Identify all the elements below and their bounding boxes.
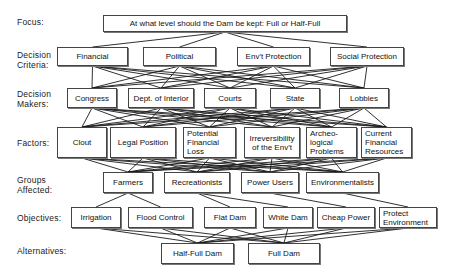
node-label: Recreationists [172, 178, 223, 187]
groups-node-power-users: Power Users [241, 172, 299, 193]
makers-node-dept-of-interior: Dept. of Interior [128, 88, 194, 108]
objectives-node-white-dam: White Dam [263, 207, 313, 228]
node-label: Courts [218, 94, 242, 103]
node-label: Potential Financial Loss [187, 129, 219, 156]
connector-line [364, 66, 367, 88]
objectives-node-irrigation: Irrigation [71, 207, 121, 228]
node-label: Environmentalists [311, 178, 374, 187]
node-label: At what level should the Dam be kept: Fu… [130, 19, 321, 28]
node-label: Power Users [247, 178, 293, 187]
connector-line [343, 193, 409, 207]
connector-line [82, 108, 92, 127]
level-label-groups: Groups Affected: [17, 175, 52, 195]
connector-line [230, 66, 367, 88]
groups-node-environmentalists: Environmentalists [306, 172, 379, 193]
node-label: Irrigation [80, 213, 111, 222]
makers-node-state: State [270, 88, 320, 108]
makers-node-courts: Courts [204, 88, 256, 108]
node-label: White Dam [268, 213, 308, 222]
connector-line [96, 193, 128, 207]
factors-node-irreversibility-of-the-env-t: Irreversibility of the Env't [244, 127, 300, 158]
connector-line [270, 158, 272, 172]
objectives-node-flat-dam: Flat Dam [204, 207, 256, 228]
factors-node-clout: Clout [57, 127, 107, 158]
focus-node-at-what-level-should-the-dam-be-kept-full-or-half-full: At what level should the Dam be kept: Fu… [103, 15, 347, 32]
node-label: Cheap Power [322, 213, 370, 222]
node-label: Congress [75, 94, 109, 103]
groups-node-farmers: Farmers [103, 172, 153, 193]
criteria-node-social-protection: Social Protection [330, 47, 404, 66]
node-label: Env't Protection [246, 52, 302, 61]
node-label: Farmers [113, 178, 143, 187]
connector-line [197, 193, 288, 207]
level-label-objectives: Objectives: [17, 213, 61, 223]
makers-node-lobbies: Lobbies [339, 88, 389, 108]
connector-line [364, 108, 387, 127]
node-label: Current Financial Resources [365, 129, 403, 156]
connector-line [284, 228, 288, 243]
node-label: State [286, 94, 305, 103]
connector-line [128, 193, 161, 207]
connector-line [92, 66, 93, 88]
connector-line [225, 32, 367, 47]
factors-node-archeo-logical-problems: Archeo- logical Problems [306, 127, 357, 158]
criteria-node-political: Political [143, 47, 216, 66]
node-label: Flat Dam [214, 213, 246, 222]
level-label-focus: Focus: [17, 17, 44, 27]
factors-node-potential-financial-loss: Potential Financial Loss [183, 127, 236, 158]
node-label: Irreversibility of the Env't [250, 134, 295, 152]
objectives-node-flood-control: Flood Control [128, 207, 193, 228]
level-label-criteria: Decision Criteria: [17, 50, 51, 70]
node-label: Political [166, 52, 194, 61]
connector-line [270, 193, 346, 207]
level-label-makers: Decision Makers: [17, 89, 51, 109]
node-label: Protect Environment [383, 209, 428, 227]
factors-node-legal-position: Legal Position [110, 127, 176, 158]
level-label-factors: Factors: [17, 138, 49, 148]
level-label-alternatives: Alternatives: [17, 246, 66, 256]
node-label: Flood Control [136, 213, 184, 222]
connector-line [93, 32, 226, 47]
alternatives-node-full-dam: Full Dam [248, 243, 320, 264]
factors-node-current-financial-resources: Current Financial Resources [361, 127, 412, 158]
objectives-node-cheap-power: Cheap Power [317, 207, 375, 228]
connector-line [284, 228, 346, 243]
objectives-node-protect-environment: Protect Environment [379, 207, 437, 228]
criteria-node-financial: Financial [57, 47, 128, 66]
alternatives-node-half-full-dam: Half-Full Dam [161, 243, 234, 264]
makers-node-congress: Congress [67, 88, 117, 108]
node-label: Clout [73, 138, 92, 147]
node-label: Half-Full Dam [173, 249, 222, 258]
node-label: Financial [76, 52, 108, 61]
node-label: Dept. of Interior [133, 94, 188, 103]
node-label: Lobbies [350, 94, 378, 103]
node-label: Social Protection [337, 52, 397, 61]
criteria-node-env-t-protection: Env't Protection [237, 47, 310, 66]
connector-line [161, 66, 274, 88]
node-label: Archeo- logical Problems [310, 129, 344, 156]
node-label: Legal Position [118, 138, 168, 147]
node-label: Full Dam [268, 249, 300, 258]
groups-node-recreationists: Recreationists [164, 172, 230, 193]
